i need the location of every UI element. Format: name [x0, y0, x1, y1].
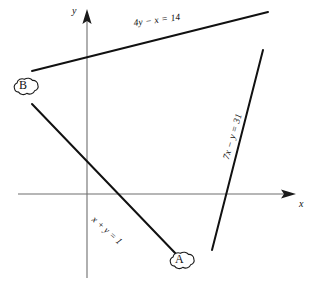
bubble-a-label: A — [175, 253, 184, 265]
graph-figure: 4y − x = 14 7x − y = 31 x + y = 1 y x A … — [0, 0, 314, 285]
bubble-b-label: B — [19, 79, 27, 91]
x-axis-label: x — [299, 199, 303, 209]
graph-canvas — [0, 0, 314, 285]
line-7x-minus-y-equals-31 — [212, 50, 263, 250]
y-axis-label: y — [72, 6, 76, 16]
